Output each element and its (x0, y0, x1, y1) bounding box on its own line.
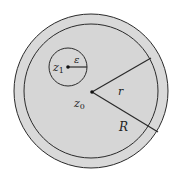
annulus-diagram: ε z1 z0 r R (0, 0, 180, 188)
label-z1-sub: 1 (59, 66, 64, 75)
label-z0-sub: 0 (80, 102, 85, 111)
label-r: r (118, 85, 124, 98)
point-z0 (90, 90, 94, 94)
point-z1 (66, 65, 70, 69)
label-epsilon: ε (74, 54, 79, 65)
label-R: R (118, 120, 128, 134)
diagram-canvas: ε z1 z0 r R (0, 0, 180, 188)
